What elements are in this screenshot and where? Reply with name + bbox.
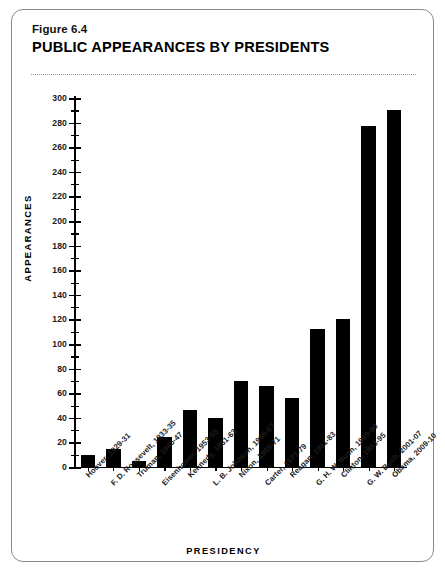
tick-mark xyxy=(71,455,79,456)
y-tick-label: 280 xyxy=(52,118,67,128)
tick-mark xyxy=(71,233,79,234)
tick-mark xyxy=(69,319,81,321)
x-tick xyxy=(215,467,216,471)
tick-mark xyxy=(69,147,81,149)
x-tick xyxy=(164,467,165,471)
y-tick-label: 220 xyxy=(52,191,67,201)
tick-mark xyxy=(69,123,81,125)
tick-mark xyxy=(71,110,79,111)
tick-mark xyxy=(71,356,79,357)
x-axis-title: PRESIDENCY xyxy=(12,546,435,556)
y-tick-label: 0 xyxy=(62,462,67,472)
y-tick-label: 260 xyxy=(52,142,67,152)
x-tick xyxy=(369,467,370,471)
tick-mark xyxy=(71,430,79,431)
y-tick-label: 160 xyxy=(52,265,67,275)
tick-mark xyxy=(69,442,81,444)
bar xyxy=(387,110,402,467)
x-tick xyxy=(113,467,114,471)
y-tick-label: 300 xyxy=(52,93,67,103)
tick-mark xyxy=(71,406,79,407)
y-tick-label: 240 xyxy=(52,167,67,177)
tick-mark xyxy=(69,98,81,100)
y-tick-label: 180 xyxy=(52,241,67,251)
y-tick-label: 140 xyxy=(52,290,67,300)
tick-mark xyxy=(69,467,81,469)
tick-mark xyxy=(69,295,81,297)
tick-mark xyxy=(69,172,81,174)
tick-mark xyxy=(69,344,81,346)
tick-mark xyxy=(71,283,79,284)
y-tick-label: 100 xyxy=(52,339,67,349)
tick-mark xyxy=(71,307,79,308)
bar xyxy=(361,126,376,467)
bar-chart: APPEARANCES 0204060801001201401601802002… xyxy=(12,10,435,563)
tick-mark xyxy=(69,246,81,248)
tick-mark xyxy=(69,418,81,420)
tick-mark xyxy=(69,196,81,198)
x-tick xyxy=(267,467,268,471)
y-tick-label: 60 xyxy=(57,388,67,398)
tick-mark xyxy=(69,270,81,272)
y-tick-label: 80 xyxy=(57,364,67,374)
tick-mark xyxy=(69,393,81,395)
tick-mark xyxy=(71,332,79,333)
tick-mark xyxy=(71,381,79,382)
figure-card: Figure 6.4 PUBLIC APPEARANCES BY PRESIDE… xyxy=(11,9,434,562)
y-tick-label: 200 xyxy=(52,216,67,226)
tick-mark xyxy=(71,258,79,259)
y-tick-label: 120 xyxy=(52,314,67,324)
tick-mark xyxy=(71,184,79,185)
y-tick-label: 40 xyxy=(57,413,67,423)
plot-area: 0204060801001201401601802002202402602803… xyxy=(75,98,407,467)
y-axis-title: APPEARANCES xyxy=(22,194,33,281)
tick-mark xyxy=(71,209,79,210)
tick-mark xyxy=(71,160,79,161)
x-tick xyxy=(318,467,319,471)
y-tick-label: 20 xyxy=(57,437,67,447)
tick-mark xyxy=(69,221,81,223)
tick-mark xyxy=(71,135,79,136)
tick-mark xyxy=(69,369,81,371)
